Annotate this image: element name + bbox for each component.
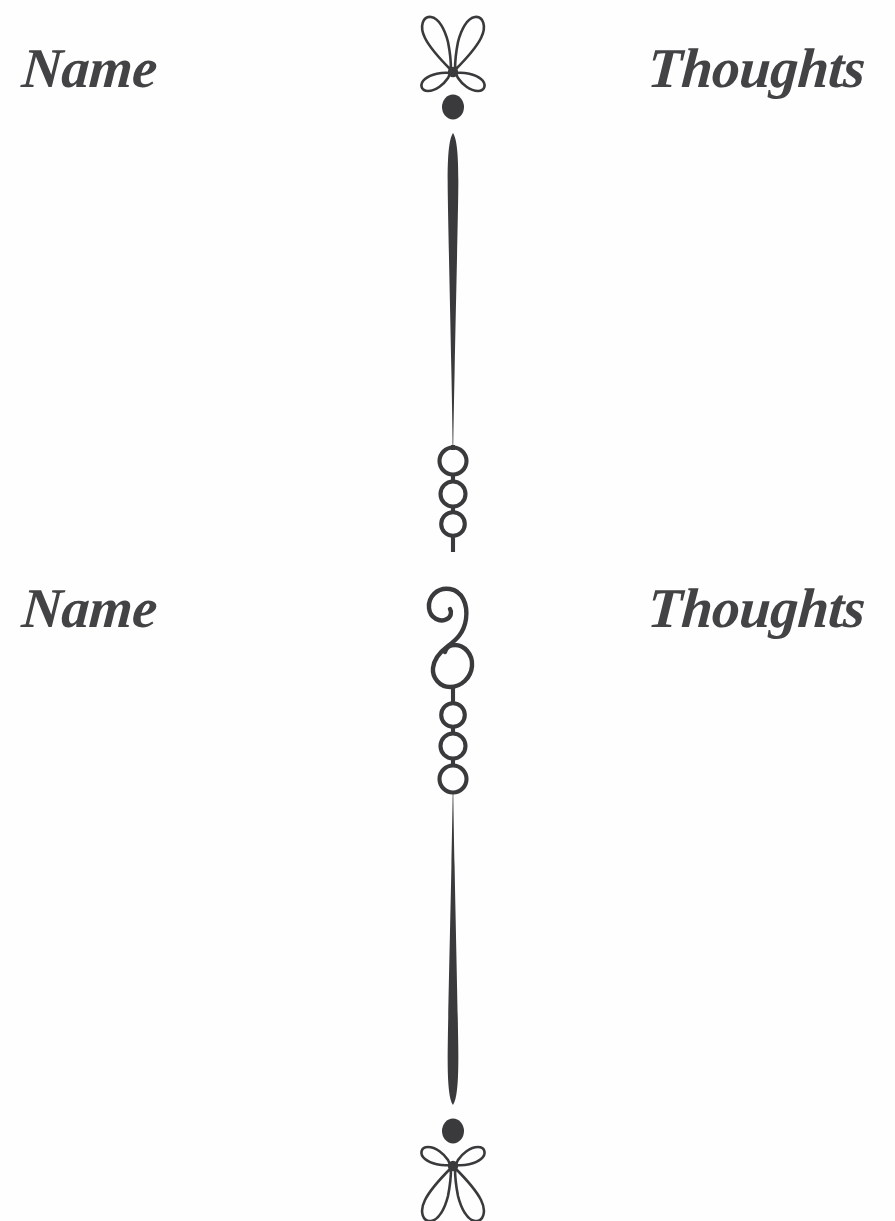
circle-chain-upper [440,445,467,552]
fleuron-center-dot-top [448,67,458,77]
chain-circle-1 [440,448,467,475]
thoughts-heading-row-1: Thoughts [646,40,867,96]
name-heading-row-1: Name [20,40,159,96]
fleuron-center-dot-bottom [448,1161,458,1171]
name-heading-row-2: Name [20,580,159,636]
tapered-rule-lower [448,792,459,1105]
chain-circle-3 [441,512,465,536]
s-scroll-swash-icon [429,589,472,687]
solid-dot-top [442,95,464,120]
solid-dot-bottom [442,1119,464,1144]
album-page: Name Thoughts Name Thoughts [0,0,895,1221]
chain-circle-6 [440,766,467,793]
thoughts-heading-row-2: Thoughts [646,580,867,636]
chain-circle-2 [441,482,466,507]
fleuron-butterfly-top-icon [421,17,484,91]
fleuron-butterfly-bottom-icon [421,1147,484,1221]
chain-circle-5 [441,734,466,759]
chain-circle-4 [441,703,465,727]
tapered-rule-upper [448,133,459,448]
circle-chain-lower [440,688,467,793]
